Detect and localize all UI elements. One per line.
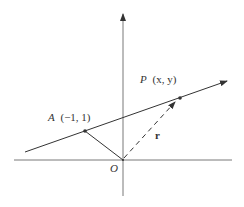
point-a-label: A (−1, 1) bbox=[47, 111, 91, 124]
position-vector-r bbox=[124, 102, 175, 158]
point-p-label: P (x, y) bbox=[139, 73, 177, 86]
point-a bbox=[83, 129, 87, 133]
vector-line-diagram: O A (−1, 1) P (x, y) r bbox=[0, 0, 244, 207]
point-p-coords: (x, y) bbox=[152, 73, 176, 86]
point-a-name: A bbox=[47, 111, 55, 123]
origin-point bbox=[122, 159, 124, 161]
point-a-coords: (−1, 1) bbox=[60, 111, 90, 124]
segment-o-to-a bbox=[85, 131, 123, 160]
vector-r-label: r bbox=[155, 129, 160, 141]
point-p-name: P bbox=[139, 73, 147, 85]
point-p bbox=[178, 96, 182, 100]
origin-label: O bbox=[110, 162, 118, 174]
